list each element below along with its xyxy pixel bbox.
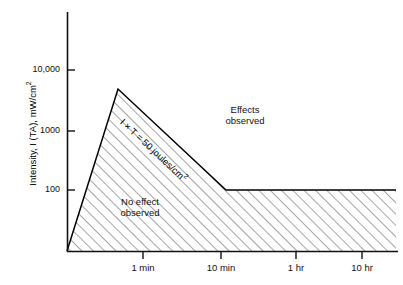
- no-effect-observed-label: No effect observed: [100, 196, 180, 218]
- y-tick-label-100: 100: [8, 184, 60, 195]
- no-effect-observed-line-2: observed: [100, 207, 180, 218]
- y-tick-label-10000: 10,000: [8, 64, 60, 75]
- effects-observed-label: Effects observed: [205, 104, 285, 126]
- x-tick-label-10-min: 10 min: [191, 262, 251, 273]
- effects-observed-line-2: observed: [205, 115, 285, 126]
- x-tick-label-10-hr: 10 hr: [332, 262, 392, 273]
- chart-figure: Intensity, I (TA), mW/cm2 10,000 1000 10…: [0, 0, 403, 285]
- effects-observed-line-1: Effects: [205, 104, 285, 115]
- x-tick-label-1-hr: 1 hr: [266, 262, 326, 273]
- x-tick-label-1-min: 1 min: [113, 262, 173, 273]
- y-axis: [68, 12, 76, 252]
- y-axis-title-exponent: 2: [25, 81, 32, 85]
- x-axis: [67, 252, 398, 260]
- chart-plot-area: [0, 0, 403, 285]
- no-effect-observed-line-1: No effect: [100, 196, 180, 207]
- y-tick-label-1000: 1000: [8, 125, 60, 136]
